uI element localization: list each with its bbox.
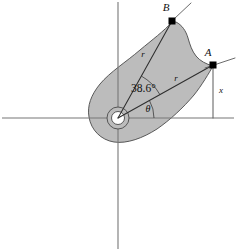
label-point-b: B bbox=[163, 1, 170, 13]
label-angle-value: 38.6° bbox=[131, 82, 156, 94]
figure-canvas: B A r r 38.6° θ x bbox=[0, 0, 236, 251]
label-point-a: A bbox=[204, 46, 212, 58]
tangent-at-B-line bbox=[174, 3, 191, 19]
label-x-offset: x bbox=[218, 85, 223, 95]
label-radius-lower: r bbox=[174, 73, 178, 83]
point-marker-A bbox=[210, 62, 217, 69]
kinematics-figure: B A r r 38.6° θ x bbox=[0, 0, 236, 251]
label-theta: θ bbox=[146, 103, 151, 114]
label-radius-upper: r bbox=[141, 49, 145, 59]
point-marker-B bbox=[169, 18, 176, 25]
